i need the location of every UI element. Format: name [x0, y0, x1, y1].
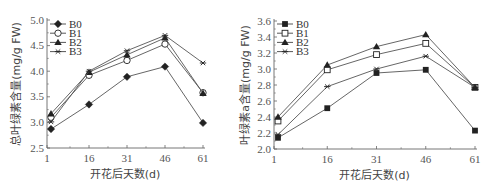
y-tick-label: 3.6 — [257, 15, 271, 27]
legend-item-b3: B3 — [277, 45, 309, 57]
data-point-marker — [423, 67, 429, 73]
x-tick-label: 1 — [271, 153, 277, 165]
x-tick-label: 46 — [420, 153, 432, 165]
chart-chlorophyll-a: 2.02.22.42.62.83.03.23.43.6116314661开花后天… — [238, 15, 481, 183]
y-tick-label: 2.2 — [257, 127, 271, 139]
legend-marker-icon — [55, 30, 61, 36]
legend: B0B1B2B3 — [277, 18, 309, 58]
y-tick-label: 3.5 — [30, 90, 44, 102]
y-tick-label: 4.0 — [30, 65, 44, 77]
data-point-marker — [47, 125, 54, 132]
chart-total-chlorophyll: 2.53.03.54.04.55.0116314661开花后天数(d)总叶绿素含… — [9, 14, 209, 182]
x-tick-label: 16 — [84, 152, 96, 164]
data-point-marker — [124, 57, 130, 63]
data-point-marker — [85, 101, 92, 108]
y-axis-label: 叶绿素a含量(mg/g FW) — [238, 25, 252, 144]
y-tick-label: 2.4 — [257, 111, 271, 123]
y-tick-label: 5.0 — [30, 14, 44, 26]
data-point-marker — [123, 73, 130, 80]
y-tick-label: 2.8 — [257, 79, 271, 91]
data-point-marker — [472, 128, 478, 134]
legend-marker-icon — [55, 49, 61, 53]
y-tick-label: 3.2 — [257, 47, 271, 59]
legend-marker-icon — [282, 30, 288, 36]
chlorophyll-charts: 2.53.03.54.04.55.0116314661开花后天数(d)总叶绿素含… — [0, 0, 488, 187]
data-point-marker — [199, 119, 206, 126]
legend-marker-icon — [282, 49, 288, 53]
data-point-marker — [324, 84, 330, 88]
y-tick-label: 2.0 — [257, 143, 271, 155]
data-point-marker — [423, 41, 429, 47]
legend-label: B3 — [69, 45, 82, 57]
series-b3 — [275, 54, 478, 137]
x-axis-label: 开花后天数(d) — [339, 169, 410, 182]
legend-marker-icon — [54, 20, 61, 27]
y-axis-label: 总叶绿素含量(mg/g FW) — [9, 22, 23, 146]
legend-marker-icon — [54, 39, 61, 45]
data-point-marker — [324, 105, 330, 111]
series-b0 — [47, 63, 206, 133]
legend-marker-icon — [281, 39, 288, 45]
y-tick-label: 2.6 — [257, 95, 271, 107]
y-tick-label: 4.5 — [30, 39, 44, 51]
x-tick-label: 1 — [44, 152, 50, 164]
legend-label: B3 — [296, 45, 309, 57]
x-tick-label: 31 — [371, 153, 382, 165]
y-tick-label: 3.0 — [257, 63, 271, 75]
series-b0 — [275, 67, 478, 141]
legend-item-b3: B3 — [50, 45, 82, 57]
data-point-marker — [275, 135, 281, 141]
data-point-marker — [422, 31, 429, 37]
y-tick-label: 2.5 — [30, 142, 44, 154]
legend: B0B1B2B3 — [50, 18, 82, 58]
x-tick-label: 46 — [160, 152, 172, 164]
data-point-marker — [161, 63, 168, 70]
x-tick-label: 61 — [470, 153, 481, 165]
y-tick-label: 3.4 — [257, 31, 271, 43]
x-tick-label: 16 — [322, 153, 334, 165]
x-tick-label: 31 — [122, 152, 133, 164]
x-axis-label: 开花后天数(d) — [90, 168, 161, 181]
y-tick-label: 3.0 — [30, 116, 44, 128]
legend-marker-icon — [282, 21, 288, 27]
x-tick-label: 61 — [198, 152, 209, 164]
data-point-marker — [374, 52, 380, 58]
